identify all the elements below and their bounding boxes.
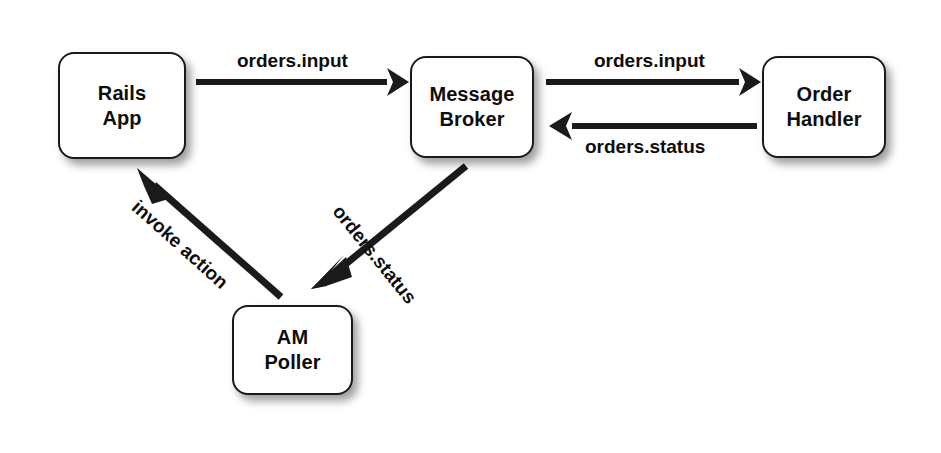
node-order-handler-line2: Handler (786, 107, 861, 132)
node-am-poller-line2: Poller (264, 350, 320, 375)
edge-broker-to-handler (546, 68, 761, 96)
node-message-broker-line2: Broker (439, 107, 504, 132)
node-am-poller-line1: AM (277, 325, 308, 350)
edge-label-rails-to-broker: orders.input (237, 50, 348, 72)
node-rails-app-line1: Rails (98, 81, 146, 106)
node-am-poller[interactable]: AM Poller (232, 305, 353, 395)
edge-label-broker-to-handler: orders.input (594, 50, 705, 72)
node-order-handler[interactable]: Order Handler (762, 56, 886, 158)
node-rails-app-line2: App (102, 106, 141, 131)
node-order-handler-line1: Order (797, 82, 852, 107)
node-message-broker[interactable]: Message Broker (410, 56, 534, 158)
edge-rails-to-broker (196, 68, 409, 96)
node-message-broker-line1: Message (429, 82, 514, 107)
edge-label-handler-to-broker: orders.status (585, 136, 705, 158)
diagram-canvas: Rails App Message Broker Order Handler A… (0, 0, 941, 453)
node-rails-app[interactable]: Rails App (58, 52, 186, 159)
